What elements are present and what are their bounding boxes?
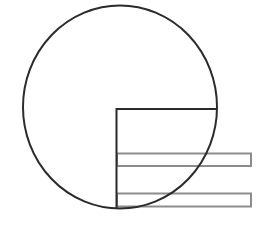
diagram-canvas [0, 0, 268, 231]
background [0, 0, 268, 231]
